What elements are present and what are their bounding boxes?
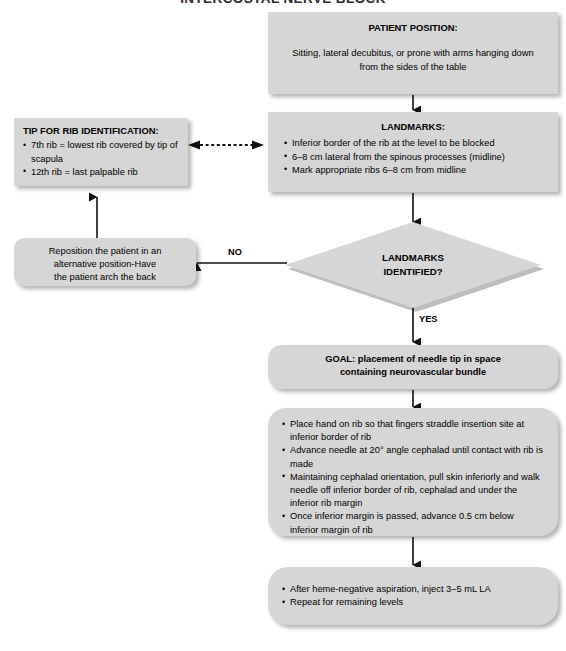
list-item: Place hand on rib so that fingers stradd… bbox=[282, 418, 544, 444]
list-item: Repeat for remaining levels bbox=[282, 596, 544, 609]
list-item: Mark appropriate ribs 6–8 cm from midlin… bbox=[284, 164, 548, 177]
edge-label-no: NO bbox=[228, 247, 242, 257]
goal-line2: containing neurovascular bundle bbox=[278, 366, 548, 379]
list-item: 7th rib = lowest rib covered by tip of s… bbox=[23, 139, 180, 165]
reposition-line3: the patient arch the back bbox=[24, 271, 186, 284]
node-finish-steps: After heme-negative aspiration, inject 3… bbox=[268, 567, 558, 625]
tip-rib-header: TIP FOR RIB IDENTIFICATION: bbox=[23, 124, 180, 137]
decision-label: LANDMARKS IDENTIFIED? bbox=[285, 222, 541, 308]
node-decision-landmarks-identified: LANDMARKS IDENTIFIED? bbox=[285, 222, 541, 308]
reposition-line2: alternative position-Have bbox=[24, 258, 186, 271]
landmarks-header: LANDMARKS: bbox=[278, 120, 548, 133]
node-goal: GOAL: placement of needle tip in space c… bbox=[268, 345, 558, 389]
list-item: After heme-negative aspiration, inject 3… bbox=[282, 583, 544, 596]
list-item: 6–8 cm lateral from the spinous processe… bbox=[284, 151, 548, 164]
patient-position-line2: from the sides of the table bbox=[278, 61, 548, 74]
list-item: Inferior border of the rib at the level … bbox=[284, 137, 548, 150]
tip-rib-list: 7th rib = lowest rib covered by tip of s… bbox=[23, 139, 180, 179]
list-item: Once inferior margin is passed, advance … bbox=[282, 510, 544, 536]
connector-lines bbox=[0, 0, 566, 651]
flowchart-canvas: INTERCOSTAL NERVE BLOCK bbox=[0, 0, 566, 651]
list-item: Maintaining cephalad orientation, pull s… bbox=[282, 471, 544, 511]
list-item: 12th rib = last palpable rib bbox=[23, 166, 180, 179]
page-title: INTERCOSTAL NERVE BLOCK bbox=[0, 0, 566, 6]
decision-line1: LANDMARKS bbox=[382, 251, 444, 265]
reposition-line1: Reposition the patient in an bbox=[24, 245, 186, 258]
landmarks-list: Inferior border of the rib at the level … bbox=[278, 137, 548, 177]
edge-label-yes: YES bbox=[419, 314, 437, 324]
node-landmarks: LANDMARKS: Inferior border of the rib at… bbox=[268, 112, 558, 192]
node-technique-steps: Place hand on rib so that fingers stradd… bbox=[268, 408, 558, 536]
finish-list: After heme-negative aspiration, inject 3… bbox=[282, 583, 544, 609]
technique-list: Place hand on rib so that fingers stradd… bbox=[282, 418, 544, 537]
goal-line1: GOAL: placement of needle tip in space bbox=[278, 353, 548, 366]
node-patient-position: PATIENT POSITION: Sitting, lateral decub… bbox=[268, 12, 558, 94]
list-item: Advance needle at 20° angle cephalad unt… bbox=[282, 444, 544, 470]
patient-position-line1: Sitting, lateral decubitus, or prone wit… bbox=[278, 47, 548, 60]
node-reposition-patient: Reposition the patient in an alternative… bbox=[14, 238, 196, 286]
patient-position-header: PATIENT POSITION: bbox=[278, 21, 548, 34]
decision-line2: IDENTIFIED? bbox=[383, 265, 442, 279]
node-tip-rib-identification: TIP FOR RIB IDENTIFICATION: 7th rib = lo… bbox=[14, 118, 188, 186]
